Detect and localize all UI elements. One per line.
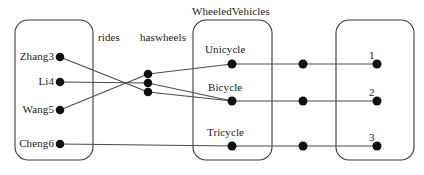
node-label-unicycle: Unicycle <box>205 44 246 55</box>
node-label-li4: Li4 <box>18 76 54 87</box>
numbers-entity-box <box>336 20 414 160</box>
vehicles-box-title: WheeledVehicles <box>192 6 270 17</box>
node-dot-zhang3[interactable] <box>56 53 65 62</box>
node-dot-tricycle[interactable] <box>228 142 237 151</box>
node-label-wang5: Wang5 <box>16 104 54 115</box>
node-dot-bicycle[interactable] <box>228 97 237 106</box>
node-dot-li4[interactable] <box>56 78 65 87</box>
node-dot-cheng6[interactable] <box>56 140 65 149</box>
node-label-cheng6: Cheng6 <box>13 138 54 149</box>
edge-li4-to-junction <box>60 82 148 83</box>
node-dot-wheelcount-1[interactable] <box>299 60 308 69</box>
node-dot-wang5[interactable] <box>56 106 65 115</box>
node-dot-wheelcount-2[interactable] <box>299 97 308 106</box>
edge-junction-to-unicycle <box>148 64 232 74</box>
node-label-bicycle: Bicycle <box>208 82 242 93</box>
node-label-tricycle: Tricycle <box>207 127 244 138</box>
edge-zhang3-to-junction <box>60 57 148 92</box>
edge-junction-to-bicycle-lower <box>148 92 232 101</box>
relation-label-haswheels: haswheels <box>140 32 186 43</box>
node-label-num-2: 2 <box>369 87 375 98</box>
node-label-num-1: 1 <box>369 50 375 61</box>
node-dot-junction-low[interactable] <box>144 88 153 97</box>
node-dot-unicycle[interactable] <box>228 60 237 69</box>
er-diagram-canvas: WheeledVehicles rides haswheels Zhang3 L… <box>0 0 424 175</box>
edge-cheng6-to-tricycle <box>60 144 232 146</box>
node-dot-junction-mid[interactable] <box>144 79 153 88</box>
node-label-zhang3: Zhang3 <box>18 51 54 62</box>
node-dot-junction-top[interactable] <box>144 70 153 79</box>
edge-wang5-to-junction <box>60 74 148 110</box>
node-dot-wheelcount-3[interactable] <box>299 142 308 151</box>
relation-label-rides: rides <box>98 32 120 43</box>
node-label-num-3: 3 <box>369 132 375 143</box>
